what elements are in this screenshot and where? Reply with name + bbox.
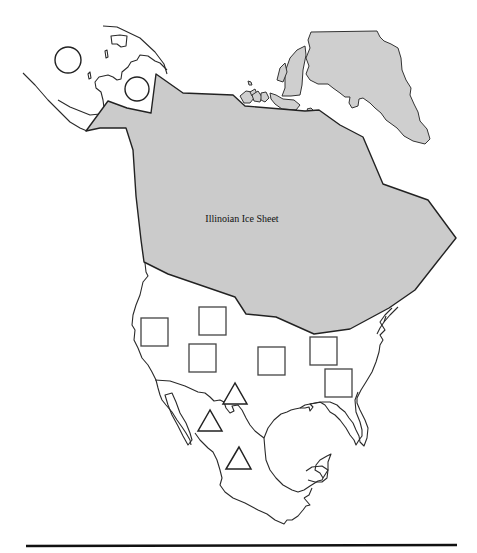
- mexico-coast: [195, 433, 331, 524]
- ice-sheet-label: Illinoian Ice Sheet: [205, 213, 279, 224]
- us-mexico-coast: [155, 308, 392, 446]
- triangle-markers: [198, 383, 251, 469]
- square-marker: [310, 337, 337, 365]
- bottom-rule: [26, 545, 457, 546]
- square-marker: [141, 318, 168, 346]
- square-marker: [189, 344, 216, 372]
- us-west-coast: [132, 263, 191, 445]
- triangle-marker: [198, 410, 222, 431]
- square-marker: [325, 369, 352, 397]
- yucatan-peninsula: [306, 466, 328, 482]
- triangle-marker: [223, 383, 247, 404]
- triangle-marker: [226, 447, 251, 469]
- arctic-islands: [240, 46, 314, 112]
- square-marker: [199, 307, 226, 335]
- circle-markers: [55, 47, 149, 101]
- square-marker: [258, 347, 285, 375]
- circle-marker: [55, 47, 81, 73]
- circle-marker: [125, 77, 149, 101]
- florida: [300, 392, 362, 445]
- north-america-map: Illinoian Ice Sheet: [0, 0, 477, 553]
